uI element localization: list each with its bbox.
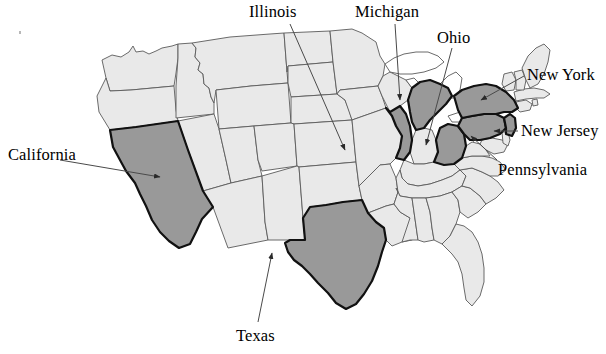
map-label-illinois: Illinois xyxy=(249,4,297,21)
map-label-michigan: Michigan xyxy=(355,4,419,21)
state-ks xyxy=(294,120,356,167)
state-in xyxy=(410,128,438,164)
map-label-california: California xyxy=(8,147,76,164)
state-ct xyxy=(516,100,532,112)
map-label-pennsylvania: Pennsylvania xyxy=(498,162,587,179)
state-nm xyxy=(262,166,305,240)
state-ri xyxy=(532,99,538,106)
state-wa xyxy=(102,44,178,91)
state-nj-highlight xyxy=(504,114,516,136)
state-mi-highlight xyxy=(408,80,452,130)
map-label-new-jersey: New Jersey xyxy=(521,123,599,140)
texas-leader-line xyxy=(258,253,272,322)
map-label-texas: Texas xyxy=(236,328,275,345)
us-map-figure: California Illinois Michigan Ohio New Yo… xyxy=(0,0,606,354)
lake-superior xyxy=(385,52,444,74)
state-wy xyxy=(216,83,291,129)
state-mn xyxy=(330,29,385,94)
map-label-new-york: New York xyxy=(527,67,595,84)
state-co xyxy=(254,123,297,171)
map-label-ohio: Ohio xyxy=(437,30,470,47)
state-sd xyxy=(288,62,337,97)
